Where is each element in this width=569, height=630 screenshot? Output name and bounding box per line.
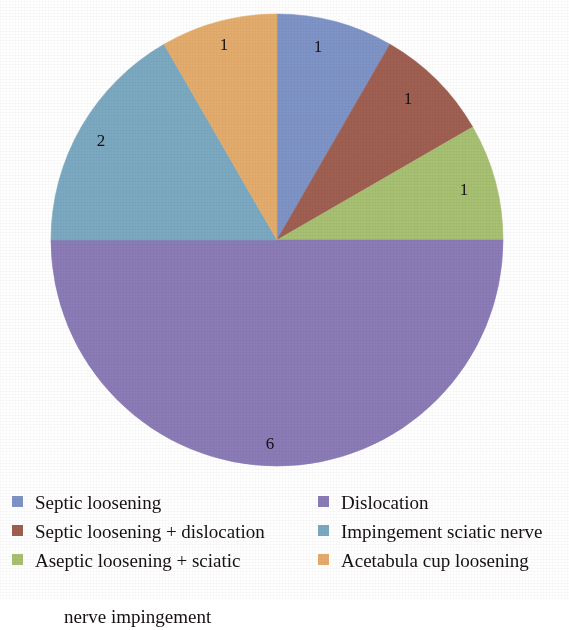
legend-item-dislocation: Dislocation <box>318 489 569 518</box>
pie-label-aseptic-loosening-sciatic: 1 <box>460 181 469 198</box>
legend-item-septic-loosening-dislocation: Septic loosening + dislocation <box>12 518 312 547</box>
pie-label-septic-loosening: 1 <box>314 38 323 55</box>
pie-chart-svg <box>0 0 569 480</box>
legend-label: Septic loosening <box>35 489 161 516</box>
legend-item-acetabula-cup-loosening: Acetabula cup loosening <box>318 547 569 576</box>
pie-label-dislocation: 6 <box>266 435 275 452</box>
legend-swatch-icon <box>12 525 23 536</box>
legend-label: Septic loosening + dislocation <box>35 518 265 545</box>
legend-swatch-icon <box>12 554 23 565</box>
legend-swatch-icon <box>318 554 329 565</box>
pie-slice-group <box>51 14 503 466</box>
pie-chart-plot-area: 1 1 1 6 2 1 <box>0 0 569 480</box>
legend-label: Acetabula cup loosening <box>341 547 529 574</box>
legend-item-impingement-sciatic-nerve: Impingement sciatic nerve <box>318 518 569 547</box>
legend-swatch-icon <box>12 496 23 507</box>
legend-label: Aseptic loosening + sciatic <box>35 547 240 574</box>
pie-slice <box>51 240 503 466</box>
legend-label: Dislocation <box>341 489 429 516</box>
legend-column-left: Septic loosening Septic loosening + disl… <box>12 489 312 630</box>
legend-item-aseptic-loosening-sciatic: Aseptic loosening + sciatic <box>12 547 312 603</box>
legend-label-continuation: nerve impingement <box>12 603 312 630</box>
legend-label: Impingement sciatic nerve <box>341 518 543 545</box>
legend-swatch-icon <box>318 496 329 507</box>
legend-column-right: Dislocation Impingement sciatic nerve Ac… <box>318 489 569 576</box>
pie-label-acetabula-cup-loosening: 1 <box>220 36 229 53</box>
chart-legend: Septic loosening Septic loosening + disl… <box>0 489 569 599</box>
pie-label-impingement-sciatic-nerve: 2 <box>97 132 106 149</box>
legend-swatch-icon <box>318 525 329 536</box>
legend-item-septic-loosening: Septic loosening <box>12 489 312 518</box>
pie-label-septic-loosening-dislocation: 1 <box>404 90 413 107</box>
